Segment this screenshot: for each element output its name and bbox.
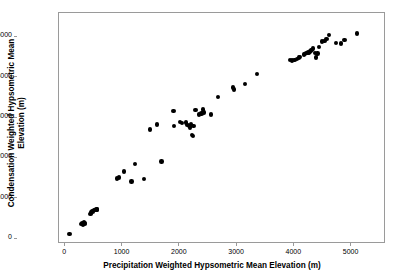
y-tick-mark <box>14 76 17 77</box>
data-point <box>202 110 206 114</box>
x-axis-label: Precipitation Weighted Hypsometric Mean … <box>34 261 390 270</box>
x-tick-label: 1000 <box>114 248 130 255</box>
data-point <box>232 87 236 91</box>
data-point <box>255 72 259 76</box>
data-point <box>216 95 220 99</box>
data-point <box>122 169 126 173</box>
y-tick-label: 3000 <box>0 112 12 119</box>
y-tick-label: 4000 <box>0 72 12 79</box>
y-tick-mark <box>14 197 17 198</box>
x-tick-label: 2000 <box>171 248 187 255</box>
data-point <box>155 122 159 126</box>
data-point <box>191 124 195 128</box>
data-point <box>82 222 86 226</box>
y-tick-mark <box>14 36 17 37</box>
x-tick-label: 4000 <box>286 248 302 255</box>
data-point <box>129 179 133 183</box>
data-point <box>159 159 163 163</box>
y-tick-mark <box>14 238 17 239</box>
x-tick-mark <box>236 243 237 246</box>
y-tick-label: 1000 <box>0 193 12 200</box>
y-tick-mark <box>14 117 17 118</box>
x-tick-mark <box>64 243 65 246</box>
x-tick-label: 0 <box>62 248 66 255</box>
data-point <box>311 46 315 50</box>
x-tick-mark <box>293 243 294 246</box>
data-point <box>67 232 71 236</box>
data-point <box>342 38 346 42</box>
y-axis-label-line2: Elevation (m) <box>17 38 27 207</box>
data-point <box>171 109 175 113</box>
x-tick-label: 5000 <box>343 248 359 255</box>
data-point <box>315 51 319 55</box>
data-point <box>314 55 318 59</box>
x-tick-label: 3000 <box>228 248 244 255</box>
y-tick-label: 0 <box>8 233 12 240</box>
x-tick-mark <box>350 243 351 246</box>
scatter-plot-figure: Condensation Weighted Hypsometric Mean E… <box>0 0 402 280</box>
y-axis-label-line1: Condensation Weighted Hypsometric Mean <box>7 38 16 207</box>
y-tick-mark <box>14 157 17 158</box>
x-tick-mark <box>178 243 179 246</box>
data-point <box>355 31 359 35</box>
plot-area <box>58 12 385 243</box>
y-tick-label: 5000 <box>0 31 12 38</box>
x-tick-mark <box>121 243 122 246</box>
y-tick-label: 2000 <box>0 152 12 159</box>
